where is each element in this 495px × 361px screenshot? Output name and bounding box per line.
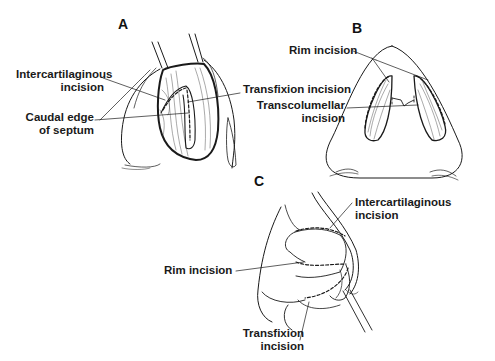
label-line: incision	[240, 340, 304, 353]
label-line: incision	[16, 81, 104, 94]
panel-b-drawing	[326, 46, 462, 180]
label-c-rim: Rim incision	[164, 264, 232, 277]
label-line: Transfixion	[240, 327, 304, 340]
label-c-intercartilaginous: Intercartilaginous incision	[355, 196, 452, 222]
label-line: Intercartilaginous	[16, 68, 104, 81]
panel-c-leaders	[236, 203, 352, 340]
label-a-transfixion: Transfixion incision	[243, 83, 351, 96]
label-line: incision	[355, 209, 452, 222]
panel-label-c: C	[254, 173, 264, 189]
label-line: Intercartilaginous	[355, 196, 452, 209]
label-line: Transcolumellar	[256, 99, 345, 112]
label-line: Caudal edge	[16, 111, 94, 124]
label-line: incision	[256, 112, 345, 125]
panel-a-drawing	[100, 34, 236, 170]
panel-label-b: B	[352, 20, 362, 36]
label-a-intercartilaginous: Intercartilaginous incision	[16, 68, 104, 94]
panel-label-a: A	[118, 16, 128, 32]
label-b-transcolumellar: Transcolumellar incision	[256, 99, 345, 125]
label-line: of septum	[16, 124, 94, 137]
incision-diagram	[0, 0, 495, 361]
label-b-rim: Rim incision	[289, 44, 357, 57]
label-a-caudal-edge: Caudal edge of septum	[16, 111, 94, 137]
label-c-transfixion: Transfixion incision	[240, 327, 304, 353]
